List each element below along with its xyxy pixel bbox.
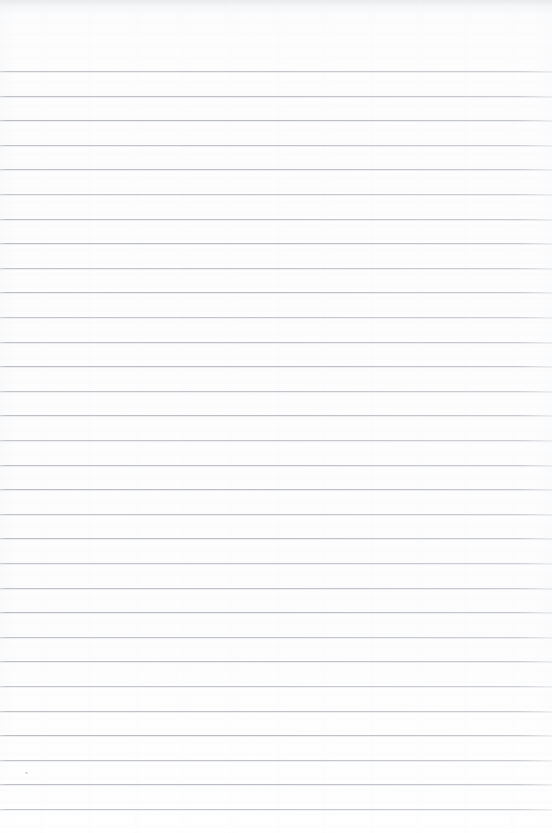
lined-paper-page — [0, 0, 552, 833]
handwriting-area[interactable] — [0, 0, 552, 833]
